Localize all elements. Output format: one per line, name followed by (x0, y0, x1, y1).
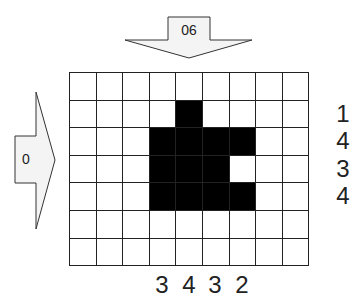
row-sum-1: 1 (333, 100, 353, 127)
grid-cell-empty (203, 239, 230, 267)
grid-cell-filled (176, 101, 203, 129)
grid-cell-empty (283, 73, 310, 101)
grid-cell-empty (176, 211, 203, 239)
grid-cell-empty (256, 183, 283, 211)
grid-cell-empty (123, 183, 150, 211)
col-sum-5: 3 (202, 270, 228, 300)
grid-cell-empty (150, 101, 177, 129)
grid-cell-filled (203, 156, 230, 184)
grid-cell-empty (97, 211, 124, 239)
top-arrow-label: 90 (179, 22, 199, 38)
col-sum-3: 3 (149, 270, 175, 300)
row-sum-4: 4 (333, 182, 353, 209)
grid-cell-empty (283, 183, 310, 211)
grid-cell-empty (97, 101, 124, 129)
grid-cell-empty (70, 183, 97, 211)
grid-cell-empty (256, 128, 283, 156)
grid-cell-empty (230, 101, 257, 129)
grid-cell-empty (70, 128, 97, 156)
grid-cell-empty (283, 156, 310, 184)
row-sum-3: 3 (333, 155, 353, 182)
grid-cell-empty (283, 211, 310, 239)
grid-cell-empty (123, 211, 150, 239)
col-sum-6: 2 (229, 270, 255, 300)
grid-cell-empty (203, 73, 230, 101)
grid-cell-empty (123, 239, 150, 267)
grid-cell-empty (256, 156, 283, 184)
grid-cell-empty (150, 239, 177, 267)
grid-cell-empty (70, 239, 97, 267)
grid-cell-empty (283, 128, 310, 156)
grid-cell-empty (97, 239, 124, 267)
pixel-grid (69, 72, 309, 266)
grid-cell-empty (203, 211, 230, 239)
col-sum-4: 4 (176, 270, 202, 300)
grid-cell-empty (256, 211, 283, 239)
row-sum-2: 4 (333, 127, 353, 154)
grid-cell-empty (256, 239, 283, 267)
grid-cell-filled (176, 183, 203, 211)
grid-cell-empty (123, 101, 150, 129)
grid-cell-empty (97, 156, 124, 184)
grid-cell-empty (230, 239, 257, 267)
grid-cell-empty (230, 156, 257, 184)
grid-cell-empty (123, 73, 150, 101)
grid-cell-empty (256, 73, 283, 101)
grid-cell-empty (283, 239, 310, 267)
grid-cell-empty (176, 73, 203, 101)
grid-cell-empty (123, 156, 150, 184)
grid-cell-filled (230, 128, 257, 156)
grid-cell-filled (150, 128, 177, 156)
grid-cell-filled (150, 183, 177, 211)
grid-cell-filled (230, 183, 257, 211)
grid-cell-filled (150, 156, 177, 184)
grid-cell-filled (176, 128, 203, 156)
grid-cell-empty (70, 101, 97, 129)
grid-cell-empty (150, 73, 177, 101)
grid-cell-filled (203, 128, 230, 156)
grid-cell-filled (176, 156, 203, 184)
grid-cell-empty (176, 239, 203, 267)
grid-cell-empty (256, 101, 283, 129)
grid-cell-empty (97, 128, 124, 156)
grid-cell-empty (97, 183, 124, 211)
grid-cell-empty (70, 211, 97, 239)
grid-cell-empty (97, 73, 124, 101)
left-arrow-label: 0 (18, 151, 34, 167)
grid-cell-empty (283, 101, 310, 129)
grid-cell-empty (230, 73, 257, 101)
grid-cell-empty (70, 73, 97, 101)
grid-cell-empty (70, 156, 97, 184)
grid-cell-empty (230, 211, 257, 239)
grid-cell-empty (150, 211, 177, 239)
grid-cell-empty (123, 128, 150, 156)
grid-cell-filled (203, 183, 230, 211)
grid-cell-empty (203, 101, 230, 129)
